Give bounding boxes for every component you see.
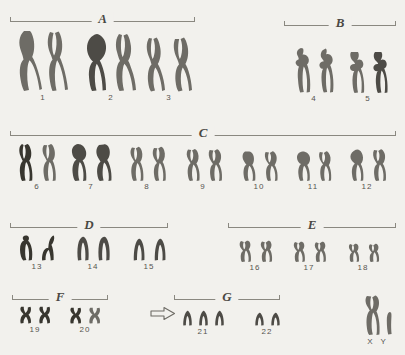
chromosome-shape bbox=[73, 236, 93, 261]
chromosome-pair-11-shapes bbox=[288, 150, 338, 181]
chromosome-shape bbox=[315, 47, 337, 93]
bracket-tick-right bbox=[279, 295, 280, 300]
chromosome-shape bbox=[143, 36, 169, 92]
chromosome-shape bbox=[16, 30, 43, 92]
chromosome-pair-19[interactable]: 19 bbox=[12, 306, 58, 334]
chromosome-pair-10-shapes bbox=[234, 150, 284, 181]
chromosome-pair-8-shapes bbox=[122, 146, 172, 181]
chromosome-shape bbox=[180, 310, 195, 326]
chromosome-shape bbox=[94, 236, 114, 261]
group-letter-c: C bbox=[192, 126, 215, 139]
chromosome-pair-4[interactable]: 4 bbox=[290, 47, 338, 103]
sex-chromosomes[interactable]: X Y bbox=[358, 295, 398, 346]
chromosome-pair-20-shapes bbox=[62, 307, 108, 324]
bracket-tick-left bbox=[174, 295, 175, 300]
chromosome-pair-6[interactable]: 6 bbox=[12, 143, 62, 191]
chromosome-shape bbox=[310, 241, 330, 262]
group-letter-a: A bbox=[91, 12, 114, 25]
chromosome-number-label: 17 bbox=[284, 263, 334, 272]
chromosome-pair-2[interactable]: 2 bbox=[82, 33, 140, 102]
chromosome-number-label: 11 bbox=[288, 182, 338, 191]
chromosome-shape bbox=[15, 143, 37, 181]
bracket-tick-right bbox=[395, 21, 396, 26]
bracket-tick-left bbox=[10, 131, 11, 136]
bracket-tick-right bbox=[395, 131, 396, 136]
chromosome-shape bbox=[182, 148, 203, 181]
chromosome-shape bbox=[16, 235, 37, 261]
chromosome-pair-17[interactable]: 17 bbox=[284, 241, 334, 272]
chromosome-number-label: 1 bbox=[14, 93, 72, 102]
chromosome-pair-15-shapes bbox=[124, 238, 174, 261]
chromosome-number-label: 3 bbox=[140, 93, 198, 102]
bracket-tick-right bbox=[107, 295, 108, 300]
chromosome-shape bbox=[44, 30, 71, 92]
chromosome-triple-21-shapes bbox=[174, 310, 232, 326]
chromosome-pair-19-shapes bbox=[12, 306, 58, 324]
chromosome-pair-4-shapes bbox=[290, 47, 338, 93]
chromosome-pair-2-shapes bbox=[82, 33, 140, 92]
chromosome-pair-12[interactable]: 12 bbox=[342, 148, 392, 191]
chromosome-pair-5[interactable]: 5 bbox=[344, 50, 392, 103]
chromosome-pair-14[interactable]: 14 bbox=[68, 236, 118, 271]
chromosome-number-label: 14 bbox=[68, 262, 118, 271]
chromosome-shape bbox=[148, 146, 169, 181]
chromosome-pair-10[interactable]: 10 bbox=[234, 150, 284, 191]
chromosome-shape bbox=[17, 306, 35, 324]
bracket-group-b: B bbox=[284, 12, 396, 26]
chromosome-pair-3[interactable]: 3 bbox=[140, 36, 198, 102]
bracket-tick-right bbox=[167, 223, 168, 228]
chromosome-shape bbox=[292, 47, 314, 93]
group-letter-f: F bbox=[49, 290, 72, 303]
chromosome-pair-16-shapes bbox=[230, 240, 280, 262]
chromosome-shape bbox=[36, 306, 54, 324]
group-letter-d: D bbox=[77, 218, 100, 231]
group-letter-b: B bbox=[329, 16, 352, 29]
chromosome-triple-21[interactable]: 21 bbox=[174, 310, 232, 336]
chromosome-shape bbox=[38, 235, 59, 261]
chromosome-shape bbox=[293, 150, 313, 181]
chromosome-pair-22[interactable]: 22 bbox=[244, 312, 290, 336]
chromosome-shape bbox=[238, 150, 259, 181]
chromosome-pair-6-shapes bbox=[12, 143, 62, 181]
chromosome-shape bbox=[126, 146, 147, 181]
chromosome-pair-11[interactable]: 11 bbox=[288, 150, 338, 191]
trisomy-arrow-icon bbox=[150, 306, 176, 321]
chromosome-number-label: 6 bbox=[12, 182, 62, 191]
chromosome-number-label: 7 bbox=[66, 182, 116, 191]
chromosome-pair-3-shapes bbox=[140, 36, 198, 92]
sex-chromosomes-shapes bbox=[358, 295, 398, 335]
chromosome-pair-13[interactable]: 13 bbox=[12, 235, 62, 271]
chromosome-shape bbox=[235, 240, 255, 262]
chromosome-pair-5-shapes bbox=[344, 50, 392, 93]
chromosome-pair-1[interactable]: 1 bbox=[14, 30, 72, 102]
chromosome-pair-13-shapes bbox=[12, 235, 62, 261]
group-letter-e: E bbox=[301, 218, 324, 231]
chromosome-number-label: 13 bbox=[12, 262, 62, 271]
chromosome-shape bbox=[268, 312, 283, 326]
chromosome-pair-16[interactable]: 16 bbox=[230, 240, 280, 272]
chromosome-pair-9[interactable]: 9 bbox=[178, 148, 228, 191]
bracket-tick-left bbox=[12, 295, 13, 300]
chromosome-shape bbox=[344, 243, 363, 262]
chromosome-shape bbox=[150, 238, 170, 261]
chromosome-pair-7-shapes bbox=[66, 143, 116, 181]
chromosome-shape bbox=[314, 150, 334, 181]
bracket-group-e: E bbox=[228, 214, 396, 228]
chromosome-shape bbox=[368, 148, 389, 181]
chromosome-shape bbox=[252, 312, 267, 326]
chromosome-pair-15[interactable]: 15 bbox=[124, 238, 174, 271]
bracket-group-c: C bbox=[10, 122, 396, 136]
chromosome-number-label: 2 bbox=[82, 93, 140, 102]
karyotype-figure: A 1 2 bbox=[0, 0, 405, 355]
chromosome-shape bbox=[129, 238, 149, 261]
chromosome-shape bbox=[289, 241, 309, 262]
chromosome-pair-18[interactable]: 18 bbox=[338, 243, 388, 272]
bracket-group-d: D bbox=[10, 214, 168, 228]
chromosome-pair-7[interactable]: 7 bbox=[66, 143, 116, 191]
chromosome-shape bbox=[67, 307, 85, 324]
chromosome-pair-20[interactable]: 20 bbox=[62, 307, 108, 334]
chromosome-shape bbox=[112, 33, 139, 92]
chromosome-pair-8[interactable]: 8 bbox=[122, 146, 172, 191]
chromosome-number-label: 9 bbox=[178, 182, 228, 191]
chromosome-pair-17-shapes bbox=[284, 241, 334, 262]
